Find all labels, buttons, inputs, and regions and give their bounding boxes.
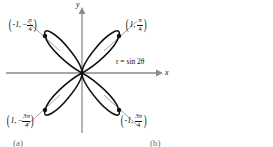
paren-close: ) <box>34 18 37 32</box>
marker-bottom-left <box>43 108 47 112</box>
label-point-bottom-left: ( 1, − 3π 4 ) <box>6 113 35 129</box>
label-point-top-left: ( -1, − π 4 ) <box>8 17 38 33</box>
y-axis-label: y <box>76 0 80 9</box>
polar-rose-figure: y x r = sin 2θ ( 1, π 4 ) ( -1, − π 4 <box>0 0 273 147</box>
caption-a: (a) <box>13 138 23 147</box>
marker-top-right <box>117 34 121 38</box>
theta-fraction: 3π 4 <box>22 113 30 129</box>
marker-top-left <box>43 34 47 38</box>
paren-open: ( <box>126 18 129 32</box>
marker-bottom-right <box>117 108 121 112</box>
label-point-bottom-right: ( -1, 3π 4 ) <box>120 113 147 129</box>
theta-fraction: π 4 <box>27 17 33 33</box>
paren-close: ) <box>31 114 34 128</box>
paren-close: ) <box>143 114 146 128</box>
equation-label: r = sin 2θ <box>116 57 144 66</box>
paren-open: ( <box>9 18 12 32</box>
paren-open: ( <box>121 114 124 128</box>
x-axis <box>6 70 163 77</box>
caption-b: (b) <box>150 138 161 147</box>
x-axis-label: x <box>165 68 169 77</box>
theta-fraction: π 4 <box>137 17 143 33</box>
paren-open: ( <box>7 114 10 128</box>
paren-close: ) <box>144 18 147 32</box>
theta-fraction: 3π 4 <box>135 113 143 129</box>
label-point-top-right: ( 1, π 4 ) <box>125 17 148 33</box>
